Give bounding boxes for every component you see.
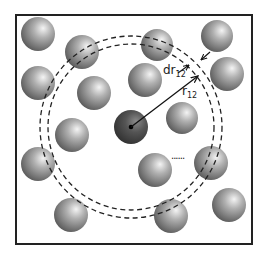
- particle-sphere: [166, 102, 198, 134]
- particle-sphere: [138, 153, 172, 187]
- particle-sphere: [141, 29, 173, 61]
- particle-sphere: [65, 35, 99, 69]
- r12-label: r12: [182, 84, 197, 100]
- particle-sphere: [55, 118, 89, 152]
- particle-sphere: [21, 66, 55, 100]
- ellipsis-dots: ......: [171, 150, 185, 161]
- particle-sphere: [77, 76, 111, 110]
- particle-sphere: [21, 147, 55, 181]
- particle-sphere: [194, 146, 228, 180]
- particle-sphere: [128, 63, 162, 97]
- particle-sphere: [210, 57, 244, 91]
- particle-sphere: [212, 188, 246, 222]
- dr12-label: dr12: [163, 63, 186, 79]
- particle-sphere: [154, 199, 188, 233]
- particle-sphere: [54, 198, 88, 232]
- rdf-diagram: dr12 r12 ......: [0, 0, 267, 258]
- particle-sphere: [201, 20, 233, 52]
- particle-sphere: [21, 17, 55, 51]
- dr12-arrow-outer: [201, 52, 210, 60]
